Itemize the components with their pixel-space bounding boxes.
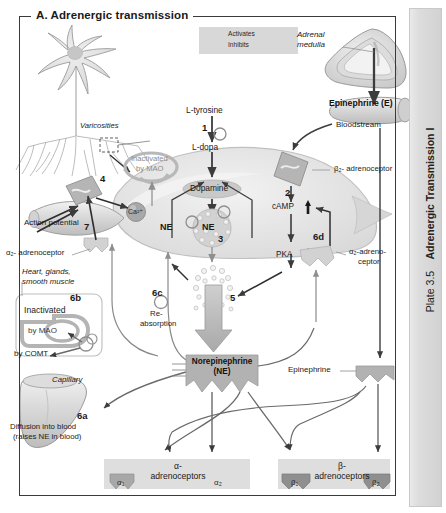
plate-number: Plate 3.5 bbox=[424, 271, 436, 312]
reabsorption-label-line1: Re- bbox=[150, 310, 163, 318]
camp-label: cAMP bbox=[272, 203, 294, 212]
plate-tab: Plate 3.5 Adrenergic Transmission I bbox=[409, 8, 442, 507]
step-6a: 6a bbox=[77, 411, 88, 421]
by-comt-label: by COMT bbox=[14, 350, 48, 358]
calcium-label: Ca²⁺ bbox=[128, 208, 143, 215]
legend-activates-label: Activates bbox=[228, 30, 255, 37]
varicosities-label: Varicosities bbox=[80, 122, 119, 130]
epinephrine-e-label: Epinephrine (E) bbox=[329, 99, 393, 108]
ne-label: NE bbox=[160, 223, 173, 232]
ne-vesicle-label: NE bbox=[202, 223, 215, 232]
inactivated-by-mao-label-line1: Inactivated bbox=[131, 155, 168, 163]
l-tyrosine-label: L-tyrosine bbox=[186, 106, 223, 115]
bloodstream-label: Bloodstream bbox=[336, 121, 381, 129]
panel-title: A. Adrenergic transmission bbox=[31, 9, 193, 21]
plate-tab-text: Plate 3.5 Adrenergic Transmission I bbox=[424, 30, 436, 410]
alpha2-bottom-label: α₂ bbox=[214, 479, 222, 487]
norepinephrine-label-line2: (NE) bbox=[186, 368, 258, 377]
dopamine-label: Dopamine bbox=[190, 184, 228, 193]
step-4: 4 bbox=[100, 174, 105, 184]
step-5: 5 bbox=[230, 293, 235, 303]
step-7: 7 bbox=[84, 222, 89, 232]
alpha-adrenoceptors-line2: adrenoceptors bbox=[136, 472, 220, 481]
inactivated-by-mao-label-line2: by MAO bbox=[136, 165, 163, 173]
step-6b: 6b bbox=[70, 293, 81, 303]
step-3: 3 bbox=[218, 234, 223, 244]
step-1: 1 bbox=[202, 123, 207, 133]
adrenal-medulla-label-line2: medulla bbox=[297, 41, 325, 49]
step-6c: 6c bbox=[152, 288, 163, 298]
diagram-page: A. Adrenergic transmission Activates Inh… bbox=[0, 0, 446, 513]
heart-glands-label-line1: Heart, glands, bbox=[22, 268, 71, 276]
pka-label: PKA bbox=[276, 251, 292, 260]
epinephrine-label: Epinephrine bbox=[288, 366, 331, 374]
inactivated-label: Inactivated bbox=[24, 306, 66, 315]
l-dopa-label: L-dopa bbox=[192, 143, 218, 152]
diffusion-label-line1: Diffusion into blood bbox=[10, 423, 76, 431]
norepinephrine-label-line1: Norepinephrine bbox=[186, 358, 258, 367]
alpha2-adrenoceptor-right-line1: α₂-adreno- bbox=[349, 248, 386, 256]
diffusion-label-line2: (raises NE in blood) bbox=[13, 433, 81, 441]
heart-glands-label-line2: smooth muscle bbox=[22, 278, 74, 286]
alpha-adrenoceptors-line1: α- bbox=[136, 462, 220, 471]
plate-title: Adrenergic Transmission I bbox=[424, 128, 436, 260]
step-6d: 6d bbox=[313, 232, 324, 242]
by-mao-label: by MAO bbox=[28, 327, 57, 335]
alpha2-adrenoceptor-right-line2: ceptor bbox=[358, 258, 380, 266]
beta-adrenoceptors-line1: β- bbox=[300, 462, 384, 471]
beta1-label: β₁ bbox=[291, 479, 298, 487]
beta2-adrenoceptor-label: β₂- adrenoceptor bbox=[334, 165, 392, 173]
step-2: 2 bbox=[285, 188, 290, 198]
legend-inhibits-label: Inhibits bbox=[228, 41, 249, 48]
beta2-label: β₂ bbox=[372, 479, 380, 487]
adrenal-medulla-label-line1: Adrenal bbox=[297, 31, 325, 39]
reabsorption-label-line2: absorption bbox=[140, 320, 176, 328]
alpha1-label: α₁ bbox=[117, 479, 124, 487]
action-potential-label: Action potential bbox=[24, 219, 79, 227]
capillary-label: Capillary bbox=[52, 376, 82, 384]
alpha2-adrenoceptor-left-label: α₂- adrenoceptor bbox=[6, 249, 64, 257]
